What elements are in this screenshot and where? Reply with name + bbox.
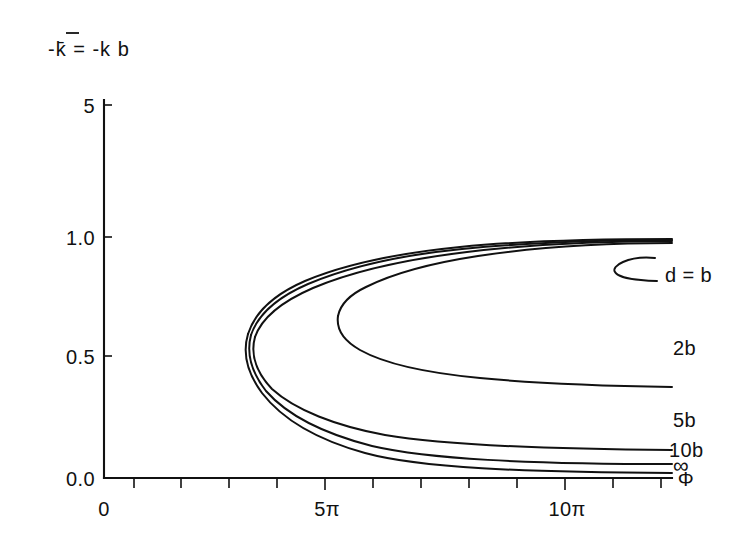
figure-container: -k̄ = -k b 5 1.0 0.5 0.0 [0, 0, 737, 550]
curve-label-d-equals-b: d = b [665, 264, 712, 286]
curve-label-5b: 5b [673, 409, 696, 431]
curve-2b-lower-branch [338, 316, 672, 387]
y-axis-tick-labels: 5 1.0 0.5 0.0 [66, 95, 95, 490]
x-tick-label-10pi: 10π [548, 498, 585, 520]
curve-d-equals-b [614, 258, 657, 281]
y-axis-ticks [104, 105, 112, 478]
curve-infinity [246, 239, 672, 473]
curve-5b [253, 241, 672, 450]
y-axis-label-group: -k̄ = -k b [48, 33, 130, 60]
y-tick-label-0-0: 0.0 [66, 468, 95, 490]
curve-2b-upper-branch [338, 243, 672, 316]
x-tick-label-5pi: 5π [314, 498, 340, 520]
axes [104, 100, 672, 478]
curve-5b-lower-branch [253, 337, 672, 450]
curve-label-infinity: ∞ [673, 453, 689, 478]
y-axis-label-lead: -k̄ = -k b [48, 38, 130, 60]
x-axis-tick-labels: 0 5π 10π [98, 498, 585, 520]
x-tick-label-0: 0 [98, 498, 110, 520]
curve-10b [249, 240, 672, 464]
x-axis-ticks [134, 478, 661, 490]
curve-infinity-lower-branch [246, 334, 672, 473]
y-tick-label-1-0: 1.0 [66, 227, 95, 249]
curve-d-equals-b-loop [614, 258, 657, 281]
curve-10b-lower-branch [249, 335, 672, 464]
curve-label-group: d = b 2b 5b 10b ∞ [665, 264, 712, 478]
dispersion-curve-plot: -k̄ = -k b 5 1.0 0.5 0.0 [0, 0, 737, 550]
curve-5b-upper-branch [255, 241, 672, 337]
y-tick-label-0-5: 0.5 [66, 346, 95, 368]
curve-label-2b: 2b [673, 337, 696, 359]
y-tick-label-5: 5 [83, 95, 95, 117]
